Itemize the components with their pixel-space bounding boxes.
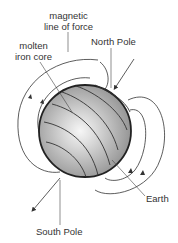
label-north-pole: North Pole bbox=[91, 36, 136, 47]
earth-magnetic-field-diagram bbox=[0, 0, 178, 243]
label-magnetic-line-of-force: magnetic line of force bbox=[44, 10, 93, 32]
north-pole-arrow bbox=[115, 59, 134, 88]
label-south-pole: South Pole bbox=[36, 226, 82, 237]
label-molten-iron-core: molten iron core bbox=[15, 40, 52, 62]
earth-sphere bbox=[39, 85, 131, 177]
south-pole-arrow bbox=[33, 178, 60, 210]
label-earth: Earth bbox=[146, 193, 169, 204]
